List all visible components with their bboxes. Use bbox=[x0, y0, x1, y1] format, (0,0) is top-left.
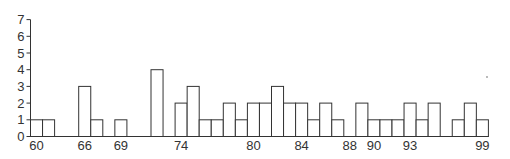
bar bbox=[175, 103, 187, 136]
y-tick-label: 5 bbox=[17, 46, 24, 61]
y-tick-label: 0 bbox=[17, 129, 24, 144]
bar bbox=[356, 103, 368, 136]
bar bbox=[31, 120, 43, 137]
y-tick-label: 4 bbox=[17, 62, 24, 77]
x-tick-label: 80 bbox=[246, 138, 260, 153]
x-tick-label: 90 bbox=[367, 138, 381, 153]
x-tick-label: 74 bbox=[174, 138, 188, 153]
bar bbox=[259, 103, 271, 136]
y-tick-label: 6 bbox=[17, 29, 24, 44]
bar bbox=[452, 120, 464, 137]
bar bbox=[151, 70, 163, 137]
y-tick-label: 3 bbox=[17, 79, 24, 94]
bar bbox=[187, 86, 199, 136]
scan-speck bbox=[486, 76, 488, 78]
bar bbox=[115, 120, 127, 137]
bar bbox=[428, 103, 440, 136]
bar bbox=[247, 103, 259, 136]
histogram-chart: 01234567 60666974808488909399 bbox=[0, 0, 510, 159]
bar bbox=[368, 120, 380, 137]
bar bbox=[235, 120, 247, 137]
x-tick-label: 99 bbox=[475, 138, 489, 153]
bar bbox=[223, 103, 235, 136]
x-axis: 60666974808488909399 bbox=[29, 137, 489, 154]
bars-group bbox=[31, 70, 489, 137]
bar bbox=[404, 103, 416, 136]
bar bbox=[199, 120, 211, 137]
bar bbox=[91, 120, 103, 137]
bar bbox=[476, 120, 488, 137]
bar bbox=[380, 120, 392, 137]
bar bbox=[79, 86, 91, 136]
x-tick-label: 66 bbox=[77, 138, 91, 153]
bar bbox=[392, 120, 404, 137]
bar bbox=[284, 103, 296, 136]
bar bbox=[296, 103, 308, 136]
bar bbox=[211, 120, 223, 137]
x-tick-label: 93 bbox=[403, 138, 417, 153]
y-tick-label: 1 bbox=[17, 112, 24, 127]
bar bbox=[416, 120, 428, 137]
bar bbox=[43, 120, 55, 137]
y-axis: 01234567 bbox=[17, 12, 30, 144]
bar bbox=[464, 103, 476, 136]
bar bbox=[272, 86, 284, 136]
y-tick-label: 7 bbox=[17, 12, 24, 27]
x-tick-label: 88 bbox=[343, 138, 357, 153]
y-tick-label: 2 bbox=[17, 96, 24, 111]
bar bbox=[320, 103, 332, 136]
x-tick-label: 84 bbox=[294, 138, 308, 153]
bar bbox=[308, 120, 320, 137]
x-tick-label: 60 bbox=[29, 138, 43, 153]
bar bbox=[332, 120, 344, 137]
x-tick-label: 69 bbox=[114, 138, 128, 153]
